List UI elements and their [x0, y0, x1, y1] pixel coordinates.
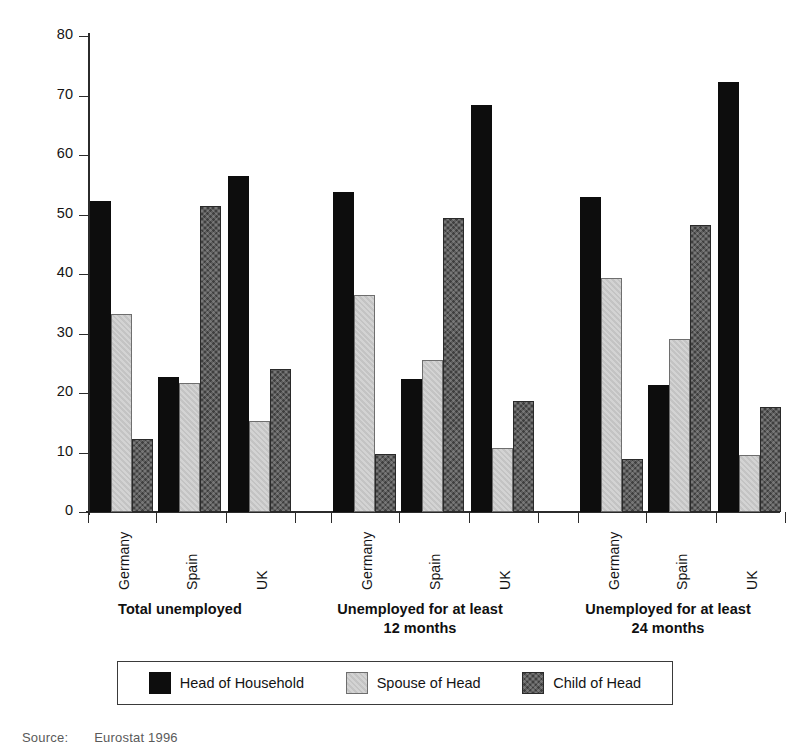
x-tick [716, 512, 717, 523]
x-tick [469, 512, 470, 523]
chart-legend: Head of HouseholdSpouse of HeadChild of … [117, 661, 673, 705]
legend-item: Spouse of Head [346, 672, 481, 694]
bar [270, 369, 291, 512]
bar [669, 339, 690, 512]
source-label: Source: [22, 730, 68, 744]
y-tick-label: 10 [57, 443, 73, 459]
y-tick: 40 [79, 274, 88, 275]
category-label-spain: Spain [427, 554, 443, 590]
group-title: Unemployed for at least24 months [553, 600, 783, 638]
plot-area: 01020304050607080 [88, 36, 778, 512]
bar [200, 206, 221, 512]
bar [249, 421, 270, 512]
x-tick [156, 512, 157, 523]
bar [132, 439, 153, 512]
bar [622, 459, 643, 512]
bar [718, 82, 739, 512]
y-tick-label: 80 [57, 26, 73, 42]
y-tick: 70 [79, 96, 88, 97]
y-tick: 20 [79, 393, 88, 394]
group-title: Unemployed for at least12 months [305, 600, 535, 638]
y-tick-label: 50 [57, 205, 73, 221]
bar [333, 192, 354, 512]
bar [228, 176, 249, 512]
bar [492, 448, 513, 512]
legend-swatch-head [149, 672, 171, 694]
bar [513, 401, 534, 512]
legend-label: Child of Head [553, 675, 641, 691]
legend-swatch-child [522, 672, 544, 694]
category-label-spain: Spain [674, 554, 690, 590]
bar [580, 197, 601, 512]
y-tick: 10 [79, 453, 88, 454]
y-tick: 0 [79, 512, 88, 513]
category-label-germany: Germany [359, 532, 375, 590]
y-tick-label: 30 [57, 324, 73, 340]
category-label-germany: Germany [116, 532, 132, 590]
source-note: Source:Eurostat 1996 [22, 730, 178, 744]
x-tick [785, 512, 786, 523]
y-tick: 60 [79, 155, 88, 156]
y-tick: 50 [79, 215, 88, 216]
bar [443, 218, 464, 512]
bar [354, 295, 375, 512]
category-label-uk: UK [744, 570, 760, 590]
bar [648, 385, 669, 512]
x-tick [331, 512, 332, 523]
bar [739, 455, 760, 512]
category-label-spain: Spain [184, 554, 200, 590]
bar [760, 407, 781, 512]
y-tick-label: 40 [57, 264, 73, 280]
bar [471, 105, 492, 512]
bar [179, 383, 200, 512]
bar [601, 278, 622, 512]
x-tick [399, 512, 400, 523]
legend-swatch-spouse [346, 672, 368, 694]
x-tick [646, 512, 647, 523]
y-tick-label: 70 [57, 86, 73, 102]
category-label-germany: Germany [606, 532, 622, 590]
legend-item: Child of Head [522, 672, 641, 694]
y-tick-label: 0 [65, 502, 73, 518]
bar [111, 314, 132, 512]
x-tick [538, 512, 539, 523]
bar [90, 201, 111, 512]
bar [375, 454, 396, 512]
group-title-line1: Total unemployed [65, 600, 295, 619]
y-tick-label: 60 [57, 145, 73, 161]
y-tick: 30 [79, 334, 88, 335]
group-title-line2: 24 months [553, 619, 783, 638]
group-title-line1: Unemployed for at least [553, 600, 783, 619]
category-label-uk: UK [254, 570, 270, 590]
group-title-line2: 12 months [305, 619, 535, 638]
x-tick [295, 512, 296, 523]
legend-label: Spouse of Head [377, 675, 481, 691]
bar-chart-figure: % of unemployed 01020304050607080 German… [0, 0, 802, 744]
group-title-line1: Unemployed for at least [305, 600, 535, 619]
bar [158, 377, 179, 512]
x-tick [578, 512, 579, 523]
category-label-uk: UK [497, 570, 513, 590]
bar [401, 379, 422, 512]
y-tick-label: 20 [57, 383, 73, 399]
group-title: Total unemployed [65, 600, 295, 619]
bar [690, 225, 711, 512]
x-tick [226, 512, 227, 523]
source-text: Eurostat 1996 [94, 730, 178, 744]
legend-label: Head of Household [180, 675, 304, 691]
x-tick [88, 512, 89, 523]
bar [422, 360, 443, 512]
y-tick: 80 [79, 36, 88, 37]
legend-item: Head of Household [149, 672, 304, 694]
